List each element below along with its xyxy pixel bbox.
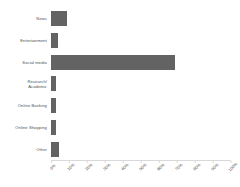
x-tick-label: 0%	[49, 163, 57, 171]
bar	[51, 98, 56, 113]
x-tick: 100%	[226, 161, 237, 170]
bar-row: Social media	[51, 51, 231, 73]
category-label: Entertainment	[0, 38, 47, 43]
category-label: Research/ Academic	[0, 79, 47, 89]
x-tick-label: 30%	[102, 162, 112, 172]
x-tick-label: 80%	[192, 162, 202, 172]
bar-row: Online Shopping	[51, 117, 231, 139]
x-tick-label: 40%	[120, 162, 130, 172]
x-tick: 90%	[209, 161, 218, 170]
bar-chart: NewsEntertainmentSocial mediaResearch/ A…	[0, 0, 240, 187]
category-label: News	[0, 16, 47, 21]
x-tick: 50%	[137, 161, 146, 170]
x-tick: 30%	[101, 161, 110, 170]
category-label: Online Banking	[0, 103, 47, 108]
x-tick: 40%	[119, 161, 128, 170]
x-tick: 0%	[48, 161, 54, 170]
x-tick-label: 100%	[227, 161, 238, 172]
x-tick-label: 90%	[210, 162, 220, 172]
x-tick: 10%	[65, 161, 74, 170]
bar-row: Online Banking	[51, 95, 231, 117]
plot-area: NewsEntertainmentSocial mediaResearch/ A…	[51, 8, 231, 160]
bar-row: Entertainment	[51, 30, 231, 52]
x-tick: 60%	[155, 161, 164, 170]
x-tick-label: 60%	[156, 162, 166, 172]
category-label: Social media	[0, 60, 47, 65]
bar	[51, 33, 58, 48]
bar	[51, 55, 175, 70]
bar	[51, 142, 59, 157]
bar	[51, 120, 56, 135]
x-tick: 80%	[191, 161, 200, 170]
x-tick: 20%	[83, 161, 92, 170]
category-label: Online Shopping	[0, 125, 47, 130]
x-tick-label: 10%	[66, 162, 76, 172]
x-axis-tick-labels: 0%10%20%30%40%50%60%70%80%90%100%	[51, 161, 231, 187]
bar-row: Research/ Academic	[51, 73, 231, 95]
x-tick: 70%	[173, 161, 182, 170]
x-tick-label: 20%	[84, 162, 94, 172]
x-tick-label: 70%	[174, 162, 184, 172]
x-tick-label: 50%	[138, 162, 148, 172]
bar-row: News	[51, 8, 231, 30]
bar	[51, 11, 67, 26]
category-label: Other	[0, 147, 47, 152]
bar	[51, 76, 56, 91]
bar-row: Other	[51, 138, 231, 160]
